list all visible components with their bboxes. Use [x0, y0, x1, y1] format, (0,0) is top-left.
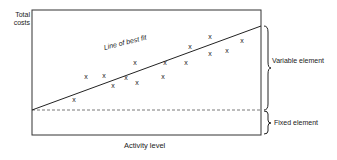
plot-frame	[32, 10, 261, 135]
fixed-element-label: Fixed element	[274, 119, 318, 127]
data-point-marker: x	[184, 59, 188, 66]
variable-element-brace-icon	[264, 26, 271, 110]
data-point-marker: x	[208, 50, 212, 57]
data-point-marker: x	[102, 72, 106, 79]
data-point-marker: x	[72, 96, 76, 103]
data-point-marker: x	[163, 59, 167, 66]
data-point-marker: x	[135, 79, 139, 86]
fixed-element-brace-icon	[264, 111, 271, 134]
scatter-plot: xxxxxxxxxxxxxxx	[0, 0, 337, 160]
variable-element-label: Variable element	[272, 57, 324, 65]
data-point-marker: x	[111, 82, 115, 89]
data-point-marker: x	[124, 74, 128, 81]
data-point-marker: x	[133, 59, 137, 66]
data-point-marker: x	[188, 43, 192, 50]
data-point-marker: x	[225, 47, 229, 54]
y-axis-label: Totalcosts	[3, 11, 30, 27]
data-point-marker: x	[161, 73, 165, 80]
cost-behaviour-diagram: xxxxxxxxxxxxxxx Totalcosts Activity leve…	[0, 0, 337, 160]
x-axis-label: Activity level	[124, 142, 165, 150]
data-point-marker: x	[84, 73, 88, 80]
data-points: xxxxxxxxxxxxxxx	[72, 33, 244, 103]
data-point-marker: x	[208, 33, 212, 40]
data-point-marker: x	[240, 37, 244, 44]
